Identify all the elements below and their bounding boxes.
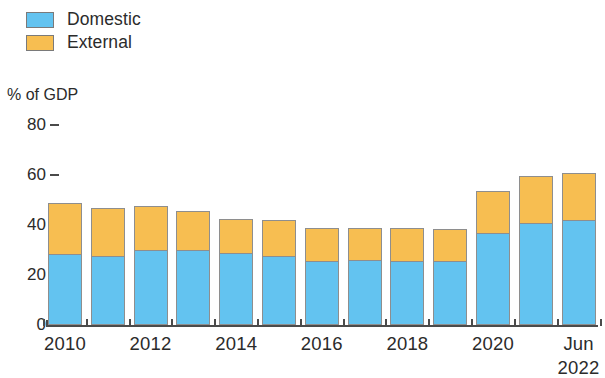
x-axis-tick-mark <box>214 319 216 326</box>
x-axis-tick-mark <box>300 319 302 326</box>
bar-segment-external <box>262 220 296 256</box>
bar-2013 <box>176 0 210 370</box>
bar-segment-external <box>562 173 596 221</box>
x-axis-tick-label: 2016 <box>301 332 343 356</box>
bar-2021 <box>519 0 553 370</box>
bar-segment-domestic <box>91 256 125 325</box>
bar-2019 <box>433 0 467 370</box>
bar-jun-2022 <box>562 0 596 370</box>
bar-segment-domestic <box>562 220 596 325</box>
x-axis-tick-label: Jun2022 <box>558 332 600 378</box>
bar-segment-domestic <box>519 223 553 326</box>
bar-segment-external <box>390 228 424 262</box>
bar-2015 <box>262 0 296 370</box>
bar-segment-external <box>433 229 467 262</box>
bar-segment-domestic <box>134 250 168 325</box>
bar-segment-domestic <box>433 261 467 325</box>
bar-segment-external <box>176 211 210 250</box>
y-axis-tick-label: 0 <box>0 315 46 335</box>
x-axis-tick-mark <box>86 319 88 326</box>
bar-segment-domestic <box>219 253 253 326</box>
bar-segment-domestic <box>262 256 296 325</box>
y-axis-tick-label: 60 <box>0 165 46 185</box>
bar-2020 <box>476 0 510 370</box>
bar-2017 <box>348 0 382 370</box>
bar-segment-external <box>476 191 510 232</box>
bar-2010 <box>48 0 82 370</box>
bar-segment-external <box>348 228 382 261</box>
x-axis-tick-mark <box>257 319 259 326</box>
x-axis-tick-label: 2014 <box>215 332 257 356</box>
bar-segment-domestic <box>176 250 210 325</box>
bar-segment-external <box>91 208 125 257</box>
bar-2016 <box>305 0 339 370</box>
x-axis-tick-label: 2018 <box>386 332 428 356</box>
x-axis-tick-mark <box>129 319 131 326</box>
bar-segment-domestic <box>305 261 339 325</box>
x-axis-tick-mark <box>514 319 516 326</box>
x-axis-tick-mark <box>171 319 173 326</box>
y-axis-tick-label: 40 <box>0 215 46 235</box>
x-axis-tick-mark <box>428 319 430 326</box>
y-axis-tick-label: 20 <box>0 265 46 285</box>
bar-segment-domestic <box>476 233 510 326</box>
bar-segment-domestic <box>48 254 82 325</box>
y-axis-tick-label: 80 <box>0 115 46 135</box>
x-axis-tick-mark <box>557 319 559 326</box>
x-axis-tick-label: 2010 <box>44 332 86 356</box>
bar-segment-external <box>519 176 553 222</box>
bar-2012 <box>134 0 168 370</box>
bar-segment-external <box>305 228 339 262</box>
bar-2014 <box>219 0 253 370</box>
x-axis-tick-label: 2020 <box>472 332 514 356</box>
x-axis-tick-mark <box>385 319 387 326</box>
bar-segment-external <box>219 219 253 253</box>
x-axis-tick-label: 2012 <box>130 332 172 356</box>
bar-2018 <box>390 0 424 370</box>
x-axis-tick-mark <box>343 319 345 326</box>
bar-2011 <box>91 0 125 370</box>
bar-segment-external <box>134 206 168 250</box>
x-axis-tick-mark <box>471 319 473 326</box>
bar-segment-domestic <box>348 260 382 325</box>
bar-segment-external <box>48 203 82 254</box>
bar-segment-domestic <box>390 261 424 325</box>
x-axis-tick-mark <box>600 319 602 326</box>
x-axis-tick-mark <box>43 319 45 326</box>
